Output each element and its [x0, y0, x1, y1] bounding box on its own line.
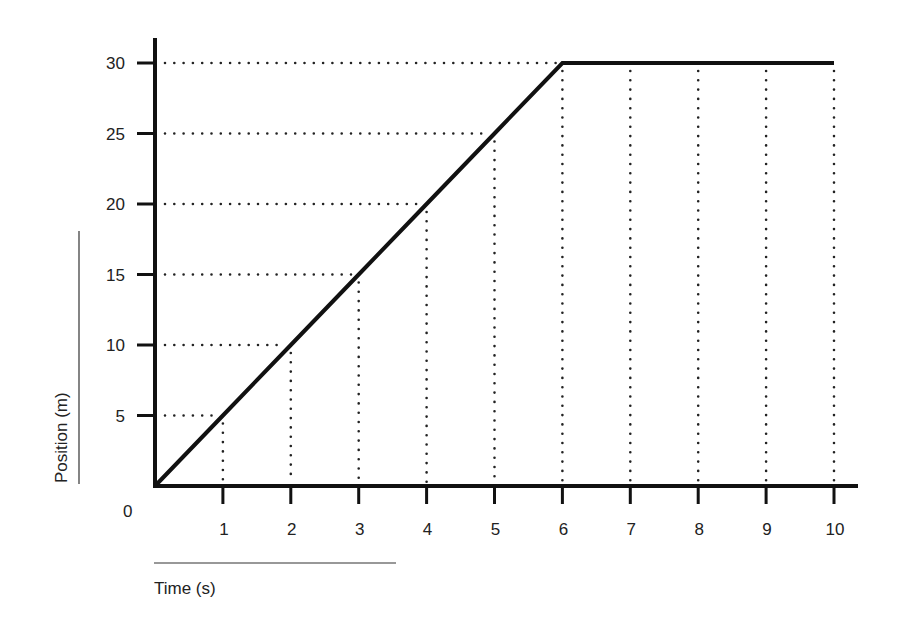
- x-tick-label: 5: [491, 520, 500, 539]
- x-tick-label: 8: [694, 520, 703, 539]
- x-tick-label: 10: [826, 520, 845, 539]
- y-tick-label: 5: [116, 407, 125, 426]
- x-tick-label: 3: [355, 520, 364, 539]
- y-axis-title: Position (m): [52, 392, 71, 483]
- y-tick-label: 20: [106, 195, 125, 214]
- position-time-chart: 5101520253012345678910 0 Position (m) Ti…: [0, 0, 898, 624]
- x-tick-label: 7: [627, 520, 636, 539]
- tick-labels: 5101520253012345678910: [106, 54, 844, 539]
- x-tick-label: 4: [423, 520, 432, 539]
- x-tick-label: 2: [287, 520, 296, 539]
- axis-ticks: [137, 63, 834, 504]
- y-tick-label: 30: [106, 54, 125, 73]
- y-tick-label: 15: [106, 266, 125, 285]
- x-tick-label: 6: [559, 520, 568, 539]
- axes: [153, 38, 858, 488]
- origin-label: 0: [123, 502, 132, 521]
- x-tick-label: 9: [762, 520, 771, 539]
- x-axis-title: Time (s): [154, 579, 216, 598]
- y-tick-label: 25: [106, 125, 125, 144]
- x-tick-label: 1: [219, 520, 228, 539]
- y-tick-label: 10: [106, 336, 125, 355]
